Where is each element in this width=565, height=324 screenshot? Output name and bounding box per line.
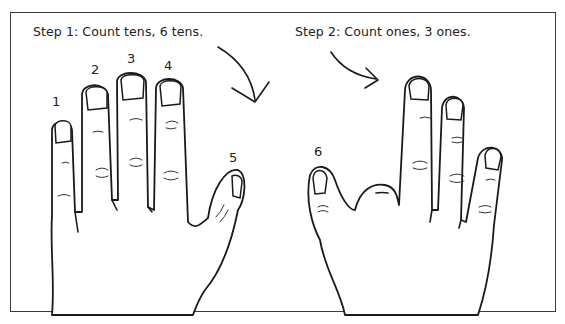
illustration bbox=[0, 0, 565, 324]
arrow-step2-icon bbox=[331, 52, 378, 88]
right-hand-drawing bbox=[308, 77, 502, 316]
left-hand-drawing bbox=[52, 73, 245, 315]
arrow-step1-icon bbox=[218, 47, 269, 102]
